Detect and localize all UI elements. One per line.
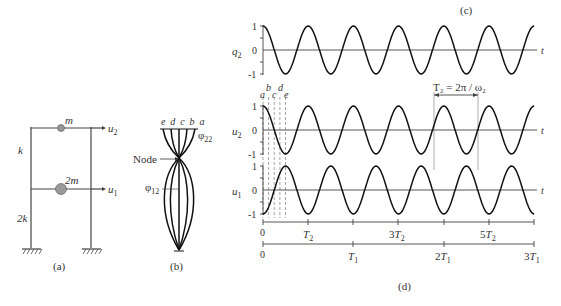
t2-tick-0: 0 (260, 227, 265, 238)
t2-tick-T2: T2 (303, 228, 313, 243)
phi22-label: φ22 (198, 129, 212, 144)
mass-top-label: m (65, 114, 73, 126)
figure-canvas: m 2m k 2k u2 u1 (a) e d c b a φ22 Node φ… (0, 0, 561, 306)
u2-label: u2 (232, 125, 242, 140)
t2-tick-3T2: 3T2 (389, 228, 405, 243)
t1-tick-2T1: 2T1 (435, 250, 451, 265)
u1-t-label: t (541, 185, 544, 196)
stiffness-top-label: k (18, 144, 24, 156)
u2-ytick-1: 1 (252, 101, 257, 112)
q2-label: q2 (232, 45, 242, 60)
marker-c: c (272, 89, 277, 100)
marker-b: b (266, 82, 271, 93)
time-markers (263, 97, 286, 218)
period-left-arrowhead-icon (434, 93, 439, 97)
u1-label: u1 (232, 185, 242, 200)
mass-m-icon (58, 125, 65, 132)
t1-tick-T1: T1 (348, 250, 358, 265)
node-label: Node (133, 153, 157, 165)
q2-ytick-1: 1 (252, 21, 257, 32)
phi12-label: φ12 (145, 181, 159, 196)
u1-ytick-0: 0 (252, 185, 257, 196)
stiffness-bottom-label: 2k (17, 212, 29, 224)
panel-c-caption: (c) (460, 4, 473, 17)
u2-ytick-neg1: -1 (248, 149, 256, 160)
curve-labels: e d c b a (161, 116, 206, 127)
t2-axis-ruler (263, 219, 534, 225)
marker-a: a (260, 89, 265, 100)
q2-ytick-neg1: -1 (248, 69, 256, 80)
u1-plot: 1 0 -1 u1 t (232, 161, 544, 220)
u2-t-label: t (541, 125, 544, 136)
panel-a-caption: (a) (53, 260, 66, 273)
panel-b-caption: (b) (170, 260, 183, 273)
t1-tick-0: 0 (260, 249, 265, 260)
panel-d-caption: (d) (398, 280, 411, 293)
u2-arrowhead-icon (102, 126, 106, 130)
disp-u2-label: u2 (108, 122, 118, 137)
mass-bottom-label: 2m (65, 174, 79, 186)
disp-u1-label: u1 (108, 183, 118, 198)
u1-arrowhead-icon (102, 187, 106, 191)
u2-ytick-0: 0 (252, 125, 257, 136)
u1-ytick-neg1: -1 (248, 209, 256, 220)
q2-ytick-0: 0 (252, 45, 257, 56)
t2-tick-5T2: 5T2 (480, 228, 496, 243)
u1-ytick-1: 1 (252, 161, 257, 172)
support-hatch-icon (23, 249, 102, 254)
u2-plot: 1 0 -1 u2 t (232, 101, 544, 160)
marker-e: e (284, 89, 289, 100)
q2-t-label: t (541, 45, 544, 56)
period-right-arrowhead-icon (473, 93, 478, 97)
period-label: T₂ = 2π / ω₂ (433, 81, 486, 93)
t1-tick-3T1: 3T1 (524, 250, 540, 265)
q2-plot: 1 0 -1 q2 t (232, 21, 544, 80)
panel-b-mode-shape (163, 129, 195, 251)
